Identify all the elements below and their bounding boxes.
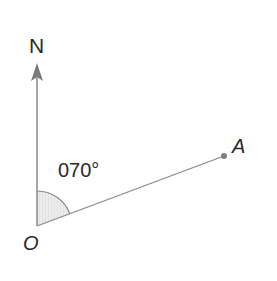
angle-sector <box>37 191 70 226</box>
origin-label: O <box>23 233 39 253</box>
north-label: N <box>29 35 44 56</box>
point-a-dot <box>221 153 227 159</box>
point-a-label: A <box>232 136 245 156</box>
bearing-angle-label: 070° <box>58 160 99 180</box>
